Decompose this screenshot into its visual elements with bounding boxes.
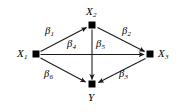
node-label-x1: X1 <box>17 48 27 59</box>
node-x1 <box>33 51 40 58</box>
node-y <box>89 81 96 88</box>
edge-label-beta2: β2 <box>122 26 131 37</box>
edge-label-beta5: β5 <box>96 39 105 50</box>
node-x3 <box>147 51 154 58</box>
edge-label-beta1: β1 <box>45 26 54 37</box>
path-diagram: X1 X2 X3 Y β1 β2 β3 β4 β5 β6 <box>0 0 182 112</box>
node-x2 <box>89 22 96 29</box>
node-label-x2: X2 <box>86 6 96 17</box>
edge-label-beta4: β4 <box>67 39 76 50</box>
edge-label-beta6: β6 <box>44 69 53 80</box>
edge-label-beta3: β3 <box>119 69 128 80</box>
node-label-x3: X3 <box>158 48 168 59</box>
node-label-y: Y <box>88 92 94 103</box>
